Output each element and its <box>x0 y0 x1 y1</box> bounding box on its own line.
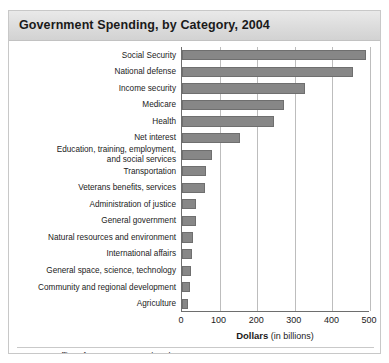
bar-row <box>182 146 370 163</box>
category-label: General space, science, technology <box>9 266 179 275</box>
bar-row <box>182 80 370 97</box>
bar-row <box>182 246 370 263</box>
chart-figure: Government Spending, by Category, 2004 S… <box>8 10 381 354</box>
category-label: International affairs <box>9 249 179 258</box>
bar <box>182 299 188 309</box>
source-divider <box>17 347 374 348</box>
source-value: Office of Management and Budget <box>52 351 182 354</box>
bar <box>182 67 353 77</box>
category-label: Veterans benefits, services <box>9 183 179 192</box>
x-tick-label: 0 <box>178 315 183 325</box>
source-note: SOURCE: Office of Management and Budget <box>19 351 182 354</box>
category-label: Transportation <box>9 167 179 176</box>
bar-row <box>182 64 370 81</box>
source-label: SOURCE: <box>19 353 52 354</box>
category-label: National defense <box>9 67 179 76</box>
plot-area <box>181 47 369 312</box>
bar <box>182 133 240 143</box>
bar <box>182 50 366 60</box>
bar <box>182 166 206 176</box>
bar <box>182 232 193 242</box>
x-axis-title-strong: Dollars <box>236 330 268 341</box>
bar-row <box>182 262 370 279</box>
bar <box>182 83 305 93</box>
bar <box>182 183 205 193</box>
x-axis-title-rest: (in billions) <box>268 331 314 341</box>
bar-row <box>182 196 370 213</box>
bar <box>182 199 196 209</box>
x-axis-tick-row: 0100200300400500 <box>181 315 369 327</box>
x-tick-label: 500 <box>361 315 376 325</box>
page-title: Government Spending, by Category, 2004 <box>19 18 270 32</box>
bar-row <box>182 295 370 312</box>
category-label: Community and regional development <box>9 283 179 292</box>
x-tick-label: 200 <box>249 315 264 325</box>
bar <box>182 150 212 160</box>
bar <box>182 282 190 292</box>
bar <box>182 249 192 259</box>
bar <box>182 116 274 126</box>
category-label: Net interest <box>9 133 179 142</box>
category-label: General government <box>9 216 179 225</box>
bar-row <box>182 213 370 230</box>
category-label: Income security <box>9 84 179 93</box>
category-label: Medicare <box>9 100 179 109</box>
bar-row <box>182 229 370 246</box>
bar <box>182 100 284 110</box>
bar-row <box>182 163 370 180</box>
plot-wrapper: Social SecurityNational defenseIncome se… <box>9 41 381 354</box>
bar-row <box>182 180 370 197</box>
bar-row <box>182 279 370 296</box>
category-label: Administration of justice <box>9 200 179 209</box>
x-tick-label: 400 <box>324 315 339 325</box>
category-label: Agriculture <box>9 299 179 308</box>
category-label: Health <box>9 117 179 126</box>
category-label: Education, training, employment, and soc… <box>9 145 179 163</box>
bar-row <box>182 97 370 114</box>
category-label: Natural resources and environment <box>9 233 179 242</box>
bar <box>182 216 196 226</box>
x-tick-label: 100 <box>211 315 226 325</box>
bar-row <box>182 130 370 147</box>
x-axis-title: Dollars (in billions) <box>181 330 369 341</box>
bar-row <box>182 113 370 130</box>
chart-title-band: Government Spending, by Category, 2004 <box>9 11 380 41</box>
bar <box>182 266 191 276</box>
bar-row <box>182 47 370 64</box>
gridline <box>370 47 371 311</box>
category-label: Social Security <box>9 51 179 60</box>
x-tick-label: 300 <box>286 315 301 325</box>
